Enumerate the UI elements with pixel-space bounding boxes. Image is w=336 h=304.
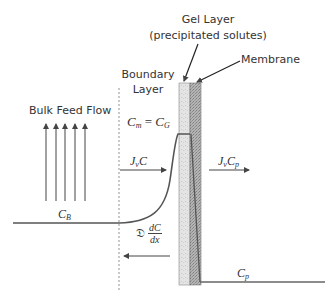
- cp-label: Cp: [237, 266, 249, 281]
- concentration-profile: [13, 134, 190, 223]
- gel-layer-title: Gel Layer: [182, 13, 235, 26]
- boundary-label-line2: Layer: [133, 83, 164, 96]
- bulk-feed-flow-arrows: [46, 124, 85, 201]
- jvcp-label: JvCp: [218, 154, 239, 169]
- bulk-feed-flow-label: Bulk Feed Flow: [29, 104, 111, 117]
- cb-label: CB: [58, 207, 71, 222]
- diffusion-coefficient-symbol: 𝔇: [136, 226, 145, 241]
- cm-equals-cg-label: Cm = CG: [127, 114, 170, 130]
- concentration-polarization-diagram: [0, 0, 336, 304]
- membrane-label: Membrane: [241, 53, 300, 66]
- gel-layer-pointer: [184, 44, 198, 81]
- gel-layer: [179, 83, 190, 285]
- jvc-label: JvC: [130, 154, 147, 169]
- diffusion-gradient-fraction: dC dx: [148, 222, 162, 245]
- gel-layer-subtitle: (precipitated solutes): [149, 29, 267, 42]
- boundary-label-line1: Boundary: [122, 68, 175, 81]
- membrane-pointer: [197, 61, 240, 82]
- membrane: [190, 83, 201, 285]
